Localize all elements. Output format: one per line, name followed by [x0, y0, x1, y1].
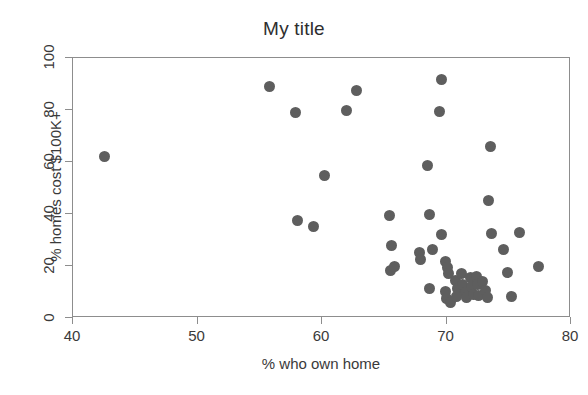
x-tick-mark [72, 317, 73, 324]
x-tick-label: 80 [550, 327, 588, 344]
scatter-chart: My title % homes cost $100K+ % who own h… [0, 0, 588, 395]
data-point [290, 107, 301, 118]
y-tick-mark [65, 265, 72, 266]
y-tick-mark [65, 317, 72, 318]
data-point [424, 283, 435, 294]
data-point [341, 105, 352, 116]
data-point [434, 106, 445, 117]
y-tick-label: 80 [40, 98, 57, 122]
y-axis-label: % homes cost $100K+ [47, 57, 64, 317]
y-tick-label: 0 [40, 306, 57, 330]
data-point [319, 170, 330, 181]
data-point [264, 81, 275, 92]
y-tick-label: 100 [40, 46, 57, 70]
y-tick-label: 40 [40, 202, 57, 226]
data-point [482, 292, 493, 303]
y-tick-mark [65, 57, 72, 58]
data-point [533, 261, 544, 272]
data-point [308, 221, 319, 232]
plot-area [73, 58, 569, 316]
plot-frame [72, 57, 570, 317]
x-tick-mark [197, 317, 198, 324]
data-point [99, 151, 110, 162]
data-point [351, 85, 362, 96]
data-point [292, 215, 303, 226]
data-point [485, 141, 496, 152]
data-point [436, 229, 447, 240]
data-point [427, 244, 438, 255]
y-tick-label: 60 [40, 150, 57, 174]
data-point [424, 209, 435, 220]
data-point [386, 240, 397, 251]
data-point [506, 291, 517, 302]
x-tick-mark [570, 317, 571, 324]
x-tick-label: 40 [52, 327, 92, 344]
x-tick-label: 70 [426, 327, 466, 344]
data-point [415, 254, 426, 265]
x-tick-mark [446, 317, 447, 324]
data-point [389, 261, 400, 272]
x-axis-label: % who own home [72, 355, 570, 372]
y-tick-mark [65, 161, 72, 162]
data-point [422, 160, 433, 171]
x-tick-label: 50 [177, 327, 217, 344]
data-point [436, 74, 447, 85]
data-point [486, 228, 497, 239]
data-point [514, 227, 525, 238]
data-point [498, 244, 509, 255]
x-tick-label: 60 [301, 327, 341, 344]
y-tick-label: 20 [40, 254, 57, 278]
y-tick-mark [65, 213, 72, 214]
data-point [483, 195, 494, 206]
data-point [384, 210, 395, 221]
data-point [502, 267, 513, 278]
x-tick-mark [321, 317, 322, 324]
y-tick-mark [65, 109, 72, 110]
chart-title: My title [0, 18, 588, 40]
